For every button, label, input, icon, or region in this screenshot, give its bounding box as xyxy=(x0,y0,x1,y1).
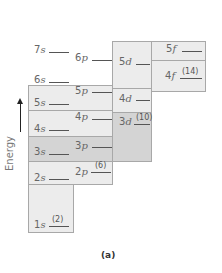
level-3p: 3p xyxy=(75,141,88,151)
level-line-2s xyxy=(49,179,69,180)
level-line-4f xyxy=(180,78,202,79)
level-6p: 6p xyxy=(75,53,88,63)
level-line-2p xyxy=(91,172,111,173)
energy-axis-label: Energy xyxy=(4,136,15,171)
level-line-5s xyxy=(49,104,69,105)
level-2s: 2s xyxy=(34,173,46,183)
capacity-1s: (2) xyxy=(52,216,63,224)
level-line-3p xyxy=(92,147,112,148)
capacity-2p: (6) xyxy=(95,162,106,170)
level-3s: 3s xyxy=(34,147,46,157)
level-line-6s xyxy=(49,82,69,83)
level-1s: 1s xyxy=(34,220,46,230)
level-4f: 4f xyxy=(165,71,175,81)
capacity-3d: (10) xyxy=(136,114,152,122)
level-line-4s xyxy=(49,130,69,131)
level-5f: 5f xyxy=(166,44,176,54)
level-5p: 5p xyxy=(75,86,88,96)
level-line-6p xyxy=(92,60,112,61)
level-line-7s xyxy=(49,52,69,53)
level-line-4p xyxy=(92,119,112,120)
energy-arrow-shaft xyxy=(20,102,21,132)
level-2p: 2p xyxy=(75,167,88,177)
level-7s: 7s xyxy=(34,45,46,55)
level-5s: 5s xyxy=(34,98,46,108)
level-5d: 5d xyxy=(119,57,132,67)
figure-caption: (a) xyxy=(101,250,115,260)
level-line-3d xyxy=(134,124,150,125)
level-6s: 6s xyxy=(34,75,46,85)
level-line-5d xyxy=(136,64,150,65)
level-4s: 4s xyxy=(34,124,46,134)
level-line-5f xyxy=(182,51,202,52)
level-line-5p xyxy=(92,92,112,93)
level-line-4d xyxy=(136,100,150,101)
box-4f xyxy=(151,60,206,92)
capacity-4f: (14) xyxy=(182,68,198,76)
level-line-1s xyxy=(49,226,69,227)
level-line-3s xyxy=(49,154,69,155)
box-5d xyxy=(112,41,152,89)
level-4p: 4p xyxy=(75,112,88,122)
level-4d: 4d xyxy=(119,94,132,104)
level-3d: 3d xyxy=(119,117,132,127)
